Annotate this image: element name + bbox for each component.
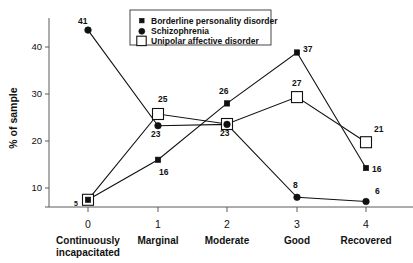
x-category-label-0-line1: Continuously (56, 235, 120, 246)
series-line-unipolar (88, 97, 366, 200)
marker-unipolar-4 (361, 137, 372, 148)
marker-schizophrenia-0 (85, 27, 92, 34)
x-category-label-0-line2: incapacitated (56, 247, 120, 258)
series-markers-unipolar (83, 92, 372, 206)
y-tick-label-40: 40 (31, 41, 42, 52)
data-label-schizophrenia-1: 23 (151, 129, 161, 139)
x-category-label-3: Good (284, 235, 310, 246)
chart-legend: Borderline personality disorder Schizoph… (130, 10, 278, 46)
x-category-label-2: Moderate (205, 235, 250, 246)
y-axis-title: % of sample (7, 87, 19, 148)
data-label-unipolar-1: 25 (158, 94, 168, 104)
y-tick-label-10: 10 (31, 182, 42, 193)
legend-label-schizophrenia: Schizophrenia (151, 26, 209, 36)
marker-schizophrenia-3 (294, 194, 301, 201)
marker-borderline-3 (294, 50, 299, 55)
x-tick-number-0: 0 (85, 218, 91, 230)
legend-marker-schizophrenia-icon (139, 28, 145, 34)
x-category-label-1: Marginal (137, 235, 178, 246)
data-label-unipolar-4: 21 (374, 124, 384, 134)
data-label-schizophrenia-3: 8 (293, 180, 298, 190)
data-label-borderline-3: 37 (303, 44, 313, 54)
marker-unipolar-3 (292, 92, 303, 103)
data-label-borderline-2: 26 (219, 86, 229, 96)
y-axis-ticks (45, 47, 49, 188)
y-tick-label-30: 30 (31, 88, 42, 99)
data-label-borderline-1: 16 (159, 167, 169, 177)
data-label-borderline-0: 5 (74, 200, 78, 207)
x-tick-number-1: 1 (155, 218, 161, 230)
legend-marker-unipolar-icon (137, 36, 146, 45)
data-label-schizophrenia-4: 6 (375, 186, 380, 196)
marker-borderline-0 (85, 197, 90, 202)
marker-schizophrenia-1 (155, 122, 162, 129)
legend-marker-borderline-icon (140, 18, 145, 23)
marker-unipolar-1 (153, 109, 164, 120)
marker-borderline-2 (224, 101, 229, 106)
marker-borderline-4 (363, 165, 368, 170)
x-axis-ticks (88, 207, 366, 212)
y-tick-label-20: 20 (31, 135, 42, 146)
data-label-schizophrenia-2: 23 (220, 128, 230, 138)
legend-label-unipolar: Unipolar affective disorder (151, 36, 259, 46)
legend-label-borderline: Borderline personality disorder (151, 16, 278, 26)
marker-borderline-1 (155, 157, 160, 162)
data-label-borderline-4: 16 (372, 164, 382, 174)
marker-schizophrenia-4 (363, 198, 370, 205)
chart-container: 40 30 20 10 % of sample 0 1 2 3 4 Contin… (0, 0, 413, 263)
x-tick-number-2: 2 (224, 218, 230, 230)
x-tick-number-4: 4 (363, 218, 369, 230)
data-label-schizophrenia-0: 41 (78, 16, 88, 26)
x-category-label-4: Recovered (340, 235, 391, 246)
line-chart: 40 30 20 10 % of sample 0 1 2 3 4 Contin… (0, 0, 413, 263)
data-label-unipolar-3: 27 (292, 78, 302, 88)
x-tick-number-3: 3 (294, 218, 300, 230)
marker-schizophrenia-2 (224, 121, 231, 128)
